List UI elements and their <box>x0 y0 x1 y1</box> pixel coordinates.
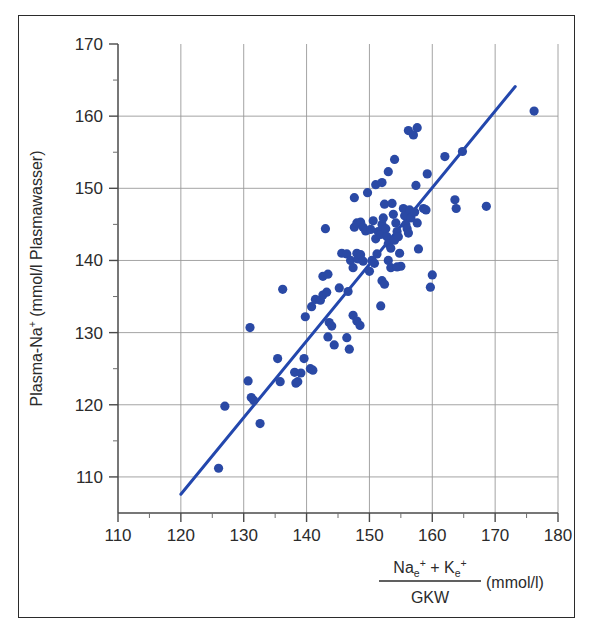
x-tick-label: 170 <box>481 526 509 545</box>
y-tick-label: 120 <box>75 396 103 415</box>
data-point <box>278 285 287 294</box>
data-point <box>296 368 305 377</box>
x-tick-label: 130 <box>230 526 258 545</box>
y-tick-label: 170 <box>75 35 103 54</box>
data-point <box>321 224 330 233</box>
data-point <box>249 396 258 405</box>
data-point <box>428 270 437 279</box>
data-point <box>330 340 339 349</box>
data-point <box>440 152 449 161</box>
x-axis-title-numerator: Nae+ + Ke+ <box>393 557 466 579</box>
data-point <box>421 205 430 214</box>
data-point <box>426 283 435 292</box>
data-point <box>413 218 422 227</box>
data-point <box>255 419 264 428</box>
data-point <box>395 249 404 258</box>
x-tick-label: 150 <box>355 526 383 545</box>
data-point <box>482 202 491 211</box>
data-point <box>359 257 368 266</box>
data-point <box>355 321 364 330</box>
y-tick-labels: 110120130140150160170 <box>75 35 103 487</box>
data-point <box>413 123 422 132</box>
data-point <box>410 208 419 217</box>
data-point <box>381 224 390 233</box>
data-point <box>342 333 351 342</box>
data-point <box>530 107 539 116</box>
data-point <box>245 323 254 332</box>
x-tick-label: 120 <box>167 526 195 545</box>
numerator-k: K <box>444 559 455 576</box>
data-point <box>404 228 413 237</box>
data-point <box>380 280 389 289</box>
data-point <box>376 301 385 310</box>
data-point <box>276 377 285 386</box>
x-tick-label: 180 <box>544 526 572 545</box>
y-axis-title-unit: (mmol/l Plasmawasser) <box>28 151 45 322</box>
y-tick-label: 140 <box>75 251 103 270</box>
data-point <box>372 249 381 258</box>
x-axis-title: Nae+ + Ke+GKW(mmol/l) <box>379 557 544 606</box>
data-point <box>273 354 282 363</box>
data-point <box>390 155 399 164</box>
y-axis-title-main: Plasma-Na <box>28 327 45 406</box>
data-point <box>327 322 336 331</box>
data-point <box>343 287 352 296</box>
y-tick-label: 110 <box>76 468 103 487</box>
data-point <box>389 210 398 219</box>
data-point <box>363 188 372 197</box>
data-point <box>452 204 461 213</box>
data-point <box>366 225 375 234</box>
data-point <box>301 312 310 321</box>
x-axis-title-denominator: GKW <box>411 589 450 606</box>
x-tick-label: 160 <box>418 526 446 545</box>
data-point <box>392 262 401 271</box>
numerator-plus: + <box>426 559 444 576</box>
y-tick-label: 130 <box>75 324 103 343</box>
data-point <box>345 345 354 354</box>
data-point <box>387 199 396 208</box>
numerator-k-superscript: + <box>461 557 467 569</box>
x-tick-label: 140 <box>292 526 320 545</box>
data-point <box>379 213 388 222</box>
data-point <box>394 232 403 241</box>
data-point <box>323 332 332 341</box>
y-tick-label: 160 <box>75 107 103 126</box>
x-tick-label: 110 <box>104 526 131 545</box>
data-point <box>214 464 223 473</box>
data-point <box>386 244 395 253</box>
x-tick-labels: 110120130140150160170180 <box>104 526 572 545</box>
numerator-na: Na <box>393 559 414 576</box>
data-point <box>348 263 357 272</box>
scatter-chart: 1101201301401501601701801101201301401501… <box>0 0 593 644</box>
data-point <box>244 376 253 385</box>
data-point <box>458 147 467 156</box>
y-tick-label: 150 <box>75 179 103 198</box>
data-point <box>365 267 374 276</box>
data-point <box>323 270 332 279</box>
data-point <box>335 283 344 292</box>
data-point <box>377 178 386 187</box>
figure-root: 1101201301401501601701801101201301401501… <box>0 0 593 644</box>
data-point <box>391 218 400 227</box>
data-point <box>423 169 432 178</box>
data-point <box>450 195 459 204</box>
data-point <box>308 366 317 375</box>
data-point <box>384 167 393 176</box>
data-point <box>322 288 331 297</box>
scatter-points <box>214 107 539 473</box>
x-axis-title-unit: (mmol/l) <box>486 574 544 591</box>
data-point <box>299 354 308 363</box>
data-point <box>220 402 229 411</box>
data-point <box>414 244 423 253</box>
data-point <box>370 259 379 268</box>
data-point <box>293 377 302 386</box>
y-axis-title: Plasma-Na+ (mmol/l Plasmawasser) <box>26 151 45 407</box>
data-point <box>350 193 359 202</box>
data-point <box>369 216 378 225</box>
data-point <box>411 181 420 190</box>
